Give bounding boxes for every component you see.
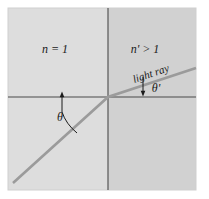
left-medium-label: n = 1 bbox=[42, 42, 68, 56]
refraction-diagram-svg: n = 1 n' > 1 light ray θ θ' bbox=[0, 0, 209, 199]
right-medium-label: n' > 1 bbox=[131, 42, 160, 56]
left-medium-region bbox=[8, 8, 108, 190]
angle-incidence-label: θ bbox=[57, 110, 63, 124]
right-medium-region bbox=[108, 8, 196, 190]
angle-refraction-label: θ' bbox=[152, 81, 161, 95]
refraction-figure: n = 1 n' > 1 light ray θ θ' bbox=[0, 0, 209, 199]
